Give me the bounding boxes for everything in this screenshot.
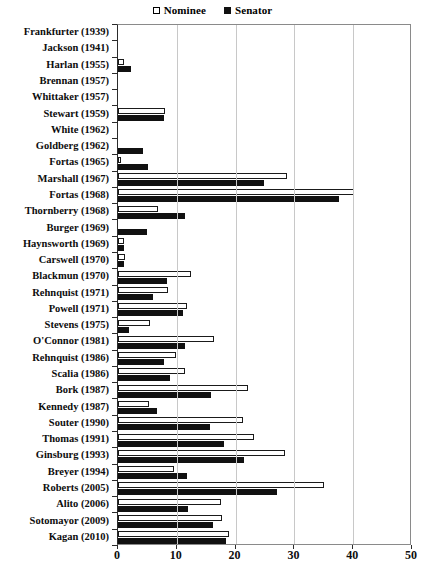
supreme-court-hearings-bar-chart: Nominee Senator Frankfurter (1939)Jackso… — [0, 0, 425, 582]
bar-row — [118, 286, 410, 302]
bar-row — [118, 367, 410, 383]
bar-senator — [118, 213, 185, 219]
y-axis-label: O'Connor (1981) — [33, 335, 109, 346]
bar-nominee — [118, 108, 165, 114]
bar-senator — [118, 408, 157, 414]
bar-row — [118, 220, 410, 236]
y-axis-label: Breyer (1994) — [48, 466, 109, 477]
x-axis-tick — [411, 545, 412, 549]
y-axis-label: Goldberg (1962) — [36, 140, 109, 151]
bar-senator — [118, 457, 244, 463]
open-square-icon — [153, 7, 160, 14]
bar-row — [118, 123, 410, 139]
y-axis-label: Blackmun (1970) — [32, 270, 109, 281]
y-axis-label: Harlan (1955) — [46, 59, 109, 70]
bar-row — [118, 481, 410, 497]
bar-nominee — [118, 238, 124, 244]
bar-row — [118, 106, 410, 122]
bar-row — [118, 58, 410, 74]
bar-row — [118, 204, 410, 220]
y-axis-label: Brennan (1957) — [39, 75, 109, 86]
gridline — [294, 25, 295, 544]
y-axis-label: Thornberry (1968) — [25, 205, 109, 216]
plot-area — [117, 24, 411, 545]
bar-senator — [118, 229, 147, 235]
bar-senator — [118, 359, 164, 365]
bar-row — [118, 497, 410, 513]
y-axis-label: Kennedy (1987) — [38, 401, 109, 412]
filled-square-icon — [224, 7, 231, 14]
x-axis-tick — [293, 545, 294, 549]
bar-nominee — [118, 417, 243, 423]
y-axis-label: Powell (1971) — [49, 303, 109, 314]
bar-row — [118, 139, 410, 155]
y-axis-label: Sotomayor (2009) — [30, 515, 109, 526]
bar-senator — [118, 196, 339, 202]
gridline — [236, 25, 237, 544]
x-axis-tick — [352, 545, 353, 549]
x-axis-label: 30 — [287, 548, 299, 563]
y-axis-label: Rehnquist (1971) — [32, 287, 109, 298]
bar-row — [118, 448, 410, 464]
y-axis-category-labels: Frankfurter (1939)Jackson (1941)Harlan (… — [0, 24, 113, 545]
bar-nominee — [118, 385, 248, 391]
bar-rows — [118, 25, 410, 544]
bar-nominee — [118, 157, 121, 163]
y-axis-label: Stevens (1975) — [45, 319, 109, 330]
bar-row — [118, 351, 410, 367]
bar-row — [118, 253, 410, 269]
y-axis-label: Fortas (1965) — [49, 156, 109, 167]
y-axis-label: Haynsworth (1969) — [23, 238, 109, 249]
bar-row — [118, 302, 410, 318]
bar-nominee — [118, 173, 287, 179]
bar-nominee — [118, 352, 176, 358]
legend-entry-nominee: Nominee — [153, 4, 206, 16]
y-axis-label: Burger (1969) — [46, 222, 109, 233]
gridline — [353, 25, 354, 544]
y-axis-label: Roberts (2005) — [43, 482, 109, 493]
bar-senator — [118, 538, 226, 544]
x-axis-label: 20 — [229, 548, 241, 563]
bar-senator — [118, 327, 129, 333]
x-axis-tick — [176, 545, 177, 549]
y-axis-label: Stewart (1959) — [43, 108, 109, 119]
bar-nominee — [118, 206, 158, 212]
bar-senator — [118, 148, 143, 154]
bar-row — [118, 513, 410, 529]
bar-nominee — [118, 499, 221, 505]
bar-row — [118, 269, 410, 285]
y-axis-label: Scalia (1986) — [52, 368, 109, 379]
bar-nominee — [118, 401, 149, 407]
x-axis-label: 50 — [405, 548, 417, 563]
bar-nominee — [118, 434, 254, 440]
bar-nominee — [118, 254, 125, 260]
bar-senator — [118, 115, 164, 121]
y-axis-label: Whittaker (1957) — [32, 91, 109, 102]
x-axis-label: 40 — [346, 548, 358, 563]
bar-senator — [118, 245, 124, 251]
y-axis-label: Souter (1990) — [49, 417, 109, 428]
y-axis-label: Rehnquist (1986) — [32, 352, 109, 363]
bar-row — [118, 188, 410, 204]
gridline — [177, 25, 178, 544]
bar-senator — [118, 180, 264, 186]
y-axis-label: Thomas (1991) — [42, 433, 109, 444]
bar-row — [118, 530, 410, 545]
bar-row — [118, 41, 410, 57]
y-axis-label: Jackson (1941) — [42, 42, 109, 53]
y-axis-label: White (1962) — [51, 124, 109, 135]
bar-senator — [118, 489, 277, 495]
y-axis-label: Ginsburg (1993) — [36, 449, 109, 460]
y-axis-label: Bork (1987) — [56, 384, 109, 395]
x-axis-label: 10 — [170, 548, 182, 563]
bar-senator — [118, 375, 170, 381]
bar-senator — [118, 343, 185, 349]
bar-row — [118, 416, 410, 432]
bar-nominee — [118, 320, 150, 326]
x-axis-tick — [235, 545, 236, 549]
bar-nominee — [118, 336, 214, 342]
bar-nominee — [118, 466, 174, 472]
bar-row — [118, 74, 410, 90]
y-axis-label: Kagan (2010) — [49, 531, 109, 542]
chart-legend: Nominee Senator — [0, 2, 425, 18]
